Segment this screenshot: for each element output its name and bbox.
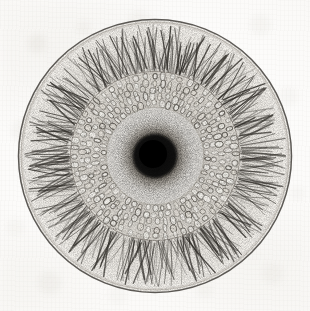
cross-section-figure bbox=[0, 0, 310, 311]
engraving-plate bbox=[0, 0, 310, 311]
plate-speckle bbox=[19, 20, 291, 292]
engraving-vector bbox=[0, 0, 310, 311]
